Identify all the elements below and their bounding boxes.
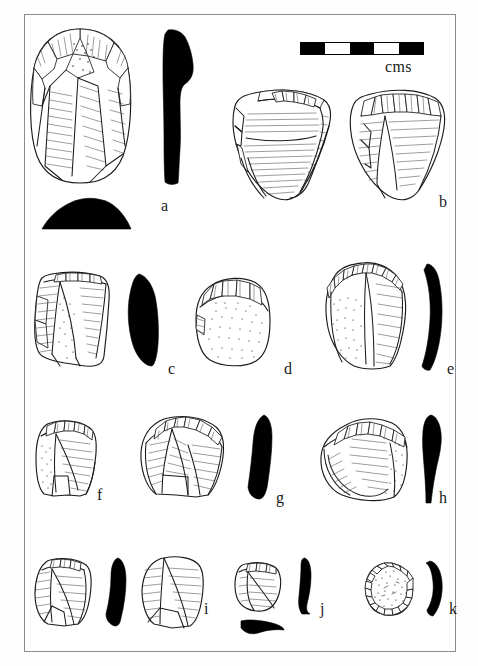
artifact-label-d: d bbox=[284, 361, 292, 377]
artifact-k-side-profile bbox=[422, 558, 448, 618]
artifact-c-side-profile bbox=[122, 272, 162, 368]
artifact-label-a: a bbox=[161, 198, 168, 214]
artifact-a-plan bbox=[28, 26, 134, 186]
artifact-h-plan bbox=[316, 415, 412, 503]
artifact-e-side-profile bbox=[416, 262, 450, 372]
artifact-g-side-profile bbox=[242, 413, 278, 501]
figure-plate: cms bbox=[0, 0, 478, 666]
artifact-i-plan bbox=[30, 556, 94, 628]
artifact-b-plan-reverse bbox=[345, 86, 450, 204]
scale-segment bbox=[325, 43, 349, 54]
artifact-a-basal-section bbox=[38, 196, 134, 232]
artifact-f-plan bbox=[32, 418, 100, 500]
artifact-k-plan bbox=[362, 560, 416, 618]
artifact-a-side-profile bbox=[154, 28, 200, 186]
scale-segment bbox=[399, 43, 423, 54]
artifact-label-h: h bbox=[439, 490, 447, 506]
artifact-label-k: k bbox=[449, 601, 457, 617]
artifact-d-plan bbox=[192, 275, 274, 367]
artifact-label-j: j bbox=[320, 601, 324, 617]
scale-bar bbox=[300, 42, 424, 55]
artifact-i-second-plan bbox=[138, 554, 208, 630]
artifact-label-i: i bbox=[204, 601, 208, 617]
artifact-label-g: g bbox=[276, 490, 284, 506]
scale-segment bbox=[350, 43, 374, 54]
artifact-label-e: e bbox=[447, 361, 454, 377]
artifact-c-plan bbox=[30, 270, 114, 370]
artifact-e-plan bbox=[318, 260, 410, 372]
artifact-b-plan-obverse bbox=[228, 86, 338, 204]
scale-segment bbox=[301, 43, 325, 54]
artifact-label-b: b bbox=[439, 194, 447, 210]
scale-unit-label: cms bbox=[385, 58, 412, 76]
artifact-j-plan bbox=[232, 560, 284, 614]
artifact-g-plan bbox=[136, 413, 228, 501]
scale-segment bbox=[374, 43, 398, 54]
artifact-j-side-profile bbox=[292, 556, 318, 616]
artifact-label-f: f bbox=[97, 487, 102, 503]
artifact-label-c: c bbox=[168, 361, 175, 377]
artifact-i-side-profile bbox=[100, 556, 132, 628]
artifact-j-basal-section bbox=[238, 616, 286, 636]
